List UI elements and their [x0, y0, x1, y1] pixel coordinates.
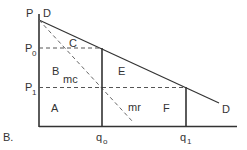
region-b-label: B: [52, 65, 59, 77]
demand-label-start: D: [43, 7, 51, 19]
figure-label: B.: [3, 131, 13, 143]
q0-subscript: o: [103, 137, 108, 146]
demand-curve: [39, 20, 219, 103]
p1-subscript: 1: [32, 88, 37, 97]
region-f-label: F: [163, 102, 170, 114]
mc-label: mc: [63, 73, 78, 85]
q0-label: q: [96, 131, 102, 143]
q1-subscript: 1: [187, 137, 192, 146]
region-a-label: A: [51, 102, 59, 114]
region-e-label: E: [118, 65, 125, 77]
mr-label: mr: [128, 101, 141, 113]
demand-label-end: D: [222, 103, 230, 115]
price-label-p: P: [26, 7, 33, 19]
q1-label: q: [180, 131, 186, 143]
monopoly-diagram: P D P 0 P 1 q o q 1 B. D mr mc C B E A F: [0, 0, 247, 150]
p0-subscript: 0: [32, 49, 37, 58]
region-c-label: C: [69, 37, 77, 49]
